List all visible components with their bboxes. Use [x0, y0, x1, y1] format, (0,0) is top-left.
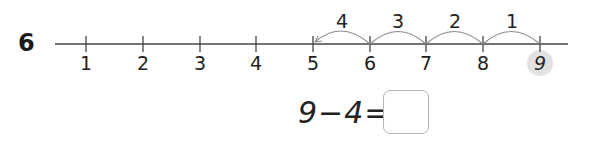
tick-label: 6	[360, 52, 380, 74]
tick-label: 5	[303, 52, 323, 74]
answer-box[interactable]	[383, 90, 429, 134]
jump-label: 4	[332, 10, 352, 32]
tick-label: 1	[76, 52, 96, 74]
tick-label: 4	[246, 52, 266, 74]
jump-label: 1	[502, 10, 522, 32]
jump-arcs	[315, 31, 540, 44]
tick-label: 7	[416, 52, 436, 74]
tick-label: 2	[133, 52, 153, 74]
tick-label-highlighted: 9	[530, 52, 550, 74]
jump-label: 3	[388, 10, 408, 32]
equation: 9−4=	[298, 95, 390, 130]
tick-label: 3	[190, 52, 210, 74]
jump-label: 2	[445, 10, 465, 32]
tick-label: 8	[473, 52, 493, 74]
